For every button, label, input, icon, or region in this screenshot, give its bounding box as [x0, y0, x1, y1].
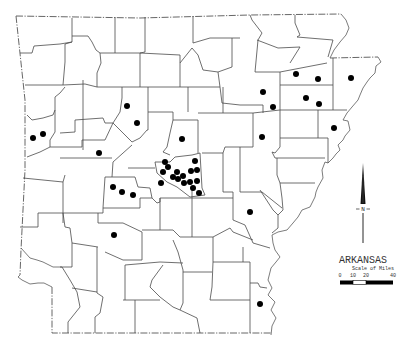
occurrence-dot: [119, 189, 125, 195]
scale-bar: [340, 281, 393, 285]
occurrence-dot: [180, 173, 186, 179]
scale-label: Scale of Miles: [352, 266, 394, 272]
occurrence-dot: [30, 135, 36, 141]
occurrence-dot: [162, 159, 168, 165]
occurrence-dot: [96, 150, 102, 156]
occurrence-dot: [260, 89, 266, 95]
occurrence-dot: [247, 209, 253, 215]
scale-tick-10: 10: [350, 273, 356, 279]
occurrence-dot: [175, 176, 181, 182]
occurrence-dot: [111, 232, 117, 238]
occurrence-dot: [134, 120, 140, 126]
occurrence-dot: [259, 134, 265, 140]
compass-label: N: [361, 206, 365, 213]
occurrence-dot: [179, 136, 185, 142]
occurrence-dot: [303, 95, 309, 101]
occurrence-dot: [158, 180, 164, 186]
occurrence-dot: [331, 125, 337, 131]
occurrence-dot: [348, 75, 354, 81]
occurrence-dot: [110, 184, 116, 190]
occurrence-dot: [192, 158, 198, 164]
occurrence-dot: [293, 71, 299, 77]
occurrence-dot: [40, 131, 46, 137]
scale-tick-20: 20: [363, 273, 369, 279]
occurrence-dot: [315, 76, 321, 82]
scale-tick-0: 0: [338, 273, 341, 279]
occurrence-dot: [270, 104, 276, 110]
occurrence-dot: [181, 180, 187, 186]
occurrence-dot: [165, 164, 171, 170]
occurrence-dot: [316, 101, 322, 107]
legend: ARKANSAS Scale of Miles 0 10 20 40: [338, 255, 396, 285]
occurrence-dot: [130, 192, 136, 198]
occurrence-dot: [187, 179, 193, 185]
arkansas-county-map: N ARKANSAS Scale of Miles 0 10 20 40: [0, 0, 410, 353]
scale-tick-40: 40: [390, 273, 396, 279]
map-title: ARKANSAS: [339, 255, 387, 266]
river-borders: [18, 14, 381, 335]
occurrence-dot: [124, 103, 130, 109]
north-arrow: N: [356, 163, 370, 243]
state-border: [16, 14, 378, 333]
occurrence-dot: [194, 178, 200, 184]
occurrence-dot: [190, 185, 196, 191]
occurrence-dot: [257, 301, 263, 307]
occurrence-dot: [174, 169, 180, 175]
occurrence-dot: [160, 169, 166, 175]
occurrence-dot: [188, 168, 194, 174]
occurrence-dot: [194, 167, 200, 173]
occurrence-dot: [196, 190, 202, 196]
